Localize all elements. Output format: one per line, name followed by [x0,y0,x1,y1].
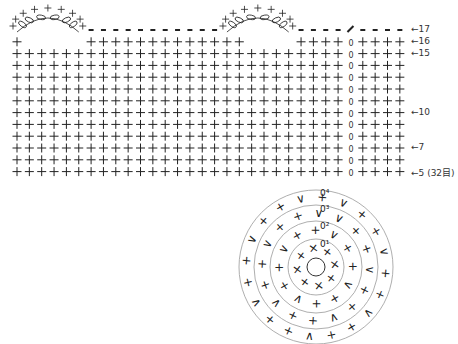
svg-text:∨: ∨ [376,246,392,258]
row-label-17: ←17 [411,24,430,34]
svg-text:∨: ∨ [244,232,260,246]
round-chart: +×+×+×+×∨++∨++∨++∨++∨++∨++∨++∨++∨++∨∨++∨… [239,188,393,344]
svg-text:0: 0 [348,121,353,130]
svg-text:+: + [346,261,360,271]
svg-text:+: + [255,259,270,270]
svg-text:+: + [257,278,274,292]
svg-text:×: × [307,241,319,256]
svg-text:0: 0 [348,110,353,119]
svg-text:+: + [323,270,340,286]
row-label-16: ←16 [411,36,430,46]
svg-text:∨: ∨ [327,310,340,326]
svg-text:+: + [378,268,393,279]
svg-text:+: + [281,323,296,340]
svg-text:+: + [339,240,356,256]
svg-text:+: + [240,276,256,289]
svg-text:+: + [272,262,286,272]
svg-text:+: + [296,274,312,291]
svg-text:∨: ∨ [248,295,265,310]
svg-text:×: × [327,258,342,270]
svg-text:+: + [291,208,305,225]
svg-text:0: 0 [348,86,353,95]
svg-text:0¹: 0¹ [320,239,330,249]
svg-text:∨: ∨ [337,195,351,211]
row-label-5: ←5 (32目) [411,166,455,179]
svg-text:0: 0 [348,62,353,71]
svg-text:+: + [311,297,321,311]
svg-text:0: 0 [348,145,353,154]
row-label-10: ←10 [411,107,430,117]
svg-text:+: + [276,278,293,294]
svg-text:+: + [239,255,254,266]
scallop-edges [10,5,297,33]
svg-text:∨: ∨ [332,210,346,226]
svg-text:∨: ∨ [259,237,275,251]
svg-text:∨: ∨ [340,278,357,293]
svg-text:0: 0 [348,74,353,83]
svg-text:+: + [344,299,361,316]
svg-text:0: 0 [348,51,353,60]
svg-text:0⁴: 0⁴ [320,188,330,198]
svg-text:∨: ∨ [275,242,292,257]
svg-text:+: + [359,242,376,256]
svg-text:+: + [356,283,373,298]
svg-text:0: 0 [348,169,353,178]
svg-text:+: + [271,218,288,235]
svg-text:∨: ∨ [304,329,314,344]
svg-text:+: + [308,314,319,329]
svg-text:×: × [313,278,325,293]
svg-text:+: + [292,247,309,263]
svg-text:+: + [348,222,365,239]
svg-text:0: 0 [348,157,353,166]
crochet-chart: 000000000000 +×+×+×+×∨++∨++∨++∨++∨++∨++∨… [0,0,458,344]
svg-text:∨: ∨ [295,191,307,207]
rectangular-grid: 000000000000 [13,26,405,178]
svg-text:0²: 0² [320,221,330,231]
svg-text:∨: ∨ [291,291,306,308]
svg-text:0: 0 [348,98,353,107]
svg-text:×: × [290,264,305,276]
svg-text:+: + [285,307,300,324]
svg-text:0: 0 [348,39,353,48]
svg-text:0³: 0³ [320,204,330,214]
svg-text:0: 0 [348,133,353,142]
svg-text:+: + [325,327,338,343]
svg-text:+: + [289,227,305,244]
row-label-7: ←7 [411,142,424,152]
svg-text:∨: ∨ [363,265,377,275]
row-label-15: ←15 [411,48,430,58]
svg-text:+: + [327,290,343,307]
svg-text:+: + [372,287,389,302]
